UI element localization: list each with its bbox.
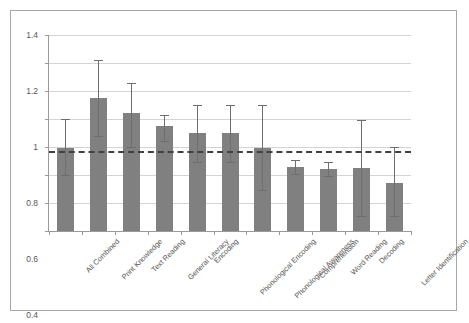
error-bar-line [394,147,395,216]
bar [320,169,337,231]
y-tick-label: 0.8 [26,198,38,208]
y-tick-label: 1.4 [26,30,38,40]
error-bar-cap-upper [357,120,366,121]
x-tick-label: All Combined [84,237,121,274]
error-bar-cap-upper [127,83,136,84]
error-bar-line [361,120,362,215]
error-bar-line [197,105,198,162]
error-bar-cap-upper [226,105,235,106]
plot-area: 00.20.40.60.811.21.4 [49,35,411,231]
gridline [49,35,411,36]
error-bar-line [295,160,296,174]
error-bar-line [164,115,165,142]
error-bar-cap-lower [357,216,366,217]
error-bar-cap-upper [94,60,103,61]
x-tick-mark [411,231,412,235]
gridline [49,91,411,92]
error-bar-cap-lower [160,141,169,142]
y-axis-line [48,35,49,231]
error-bar-line [131,83,132,147]
y-tick-mark: 0.2 [45,203,49,204]
error-bar-cap-upper [324,162,333,163]
x-axis-labels: All CombinedPrint KnowledgeText ReadingG… [49,231,411,312]
error-bar-cap-lower [258,190,267,191]
error-bar-line [262,105,263,190]
error-bar-cap-lower [193,162,202,163]
error-bar-cap-upper [193,105,202,106]
y-tick-label: 1.2 [26,86,38,96]
y-tick-label: 0.4 [26,310,38,320]
reference-line [49,151,411,153]
y-tick-mark: 1.2 [45,63,49,64]
y-tick-mark: 1 [45,91,49,92]
error-bar-cap-lower [324,176,333,177]
y-tick-label: 1 [33,142,38,152]
error-bar-cap-lower [226,162,235,163]
error-bar-cap-lower [61,175,70,176]
error-bar-cap-lower [390,216,399,217]
error-bar-cap-lower [94,136,103,137]
error-bar-cap-upper [291,160,300,161]
error-bar-line [65,119,66,175]
error-bar-cap-upper [160,115,169,116]
gridline [49,63,411,64]
y-tick-mark: 0.8 [45,119,49,120]
x-tick-label: Letter Identification [419,237,469,288]
error-bar-line [230,105,231,162]
error-bar-cap-upper [61,119,70,120]
y-tick-mark: 1.4 [45,35,49,36]
error-bar-cap-lower [127,147,136,148]
bar [287,167,304,231]
y-tick-label: 0.6 [26,254,38,264]
error-bar-line [328,162,329,176]
chart-plot-wrapper: 00.20.40.60.811.21.4 All CombinedPrint K… [11,11,458,312]
y-tick-mark: 0.4 [45,175,49,176]
error-bar-cap-upper [258,105,267,106]
error-bar-cap-lower [291,174,300,175]
y-tick-mark: 0.6 [45,147,49,148]
chart-frame: 00.20.40.60.811.21.4 All CombinedPrint K… [10,10,457,311]
error-bar-line [98,60,99,136]
error-bar-cap-upper [390,147,399,148]
